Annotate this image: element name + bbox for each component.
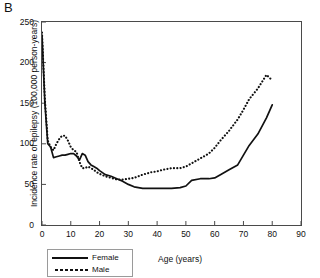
x-tick-label: 90 (289, 230, 313, 239)
legend-key-solid-icon (52, 253, 88, 262)
x-tick-label: 60 (203, 230, 227, 239)
x-tick-label: 20 (88, 230, 112, 239)
series-curves (42, 22, 301, 225)
x-tick-label: 70 (231, 230, 255, 239)
legend-key-dotted-icon (52, 265, 88, 274)
legend-item-male: Male (52, 264, 109, 275)
figure-panel-b: B Incidence rate of epilepsy (100,000 pe… (0, 0, 320, 278)
x-tick-label: 10 (59, 230, 83, 239)
legend-box: Female Male (47, 249, 133, 277)
legend-label-female: Female (92, 253, 119, 262)
x-tick-label: 50 (174, 230, 198, 239)
x-tick-label: 80 (260, 230, 284, 239)
x-tick-label: 30 (116, 230, 140, 239)
legend-label-male: Male (92, 265, 109, 274)
plot-area (41, 21, 302, 226)
legend-item-female: Female (52, 252, 119, 263)
x-tick-label: 0 (30, 230, 54, 239)
series-line-male (42, 33, 272, 180)
series-line-female (42, 35, 272, 188)
x-tick-label: 40 (145, 230, 169, 239)
